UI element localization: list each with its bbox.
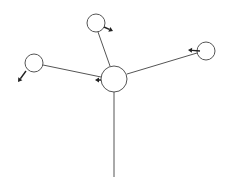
node-top bbox=[87, 14, 105, 32]
nodes-group bbox=[25, 14, 215, 92]
edge-center-top bbox=[98, 32, 110, 66]
force-arrow-icon-center bbox=[95, 78, 101, 83]
edge-center-left bbox=[43, 65, 101, 77]
node-center bbox=[101, 66, 127, 92]
node-left bbox=[25, 54, 43, 72]
edges-group bbox=[43, 32, 197, 177]
edge-center-right bbox=[127, 53, 197, 74]
force-arrow-icon-left bbox=[18, 71, 26, 82]
force-arrow-icon-top bbox=[104, 27, 113, 32]
force-diagram bbox=[0, 0, 229, 186]
